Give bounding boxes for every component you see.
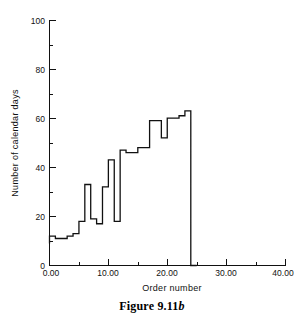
y-axis-title: Number of calendar days [10, 89, 20, 197]
y-axis-ticks [50, 21, 57, 266]
y-tick-label-20: 20 [36, 212, 46, 222]
figure-container: Number of calendar days 100 80 60 40 20 … [0, 0, 304, 324]
step-chart: Number of calendar days 100 80 60 40 20 … [0, 0, 304, 304]
y-tick-label-40: 40 [36, 163, 46, 173]
step-series-path [50, 111, 197, 266]
x-tick-label-20: 20.00 [156, 268, 178, 278]
x-axis-title: Order number [142, 283, 202, 293]
x-axis-ticks [50, 259, 286, 266]
figure-caption-prefix: Figure 9.11 [119, 299, 178, 313]
x-tick-label-40: 40.00 [272, 268, 294, 278]
x-tick-label-10: 10.00 [97, 268, 119, 278]
y-tick-label-80: 80 [36, 65, 46, 75]
y-tick-label-100: 100 [31, 16, 45, 26]
figure-caption: Figure 9.11b [0, 299, 304, 314]
figure-caption-suffix: b [179, 299, 185, 313]
x-tick-label-30: 30.00 [215, 268, 237, 278]
x-tick-label-0: 0.00 [43, 268, 60, 278]
y-tick-label-60: 60 [36, 114, 46, 124]
